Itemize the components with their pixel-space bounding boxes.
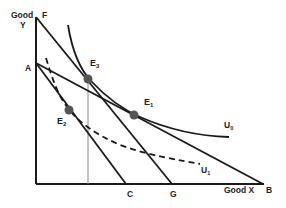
label-b: B bbox=[266, 185, 272, 195]
label-u1: U1 bbox=[201, 165, 210, 176]
point-e2 bbox=[65, 106, 74, 115]
budget-line-ac bbox=[36, 63, 126, 184]
diagram-canvas: Good Y Good X F A C G B E3 E1 E2 U0 U1 bbox=[0, 0, 286, 208]
label-e2: E2 bbox=[57, 116, 67, 127]
label-f: F bbox=[42, 10, 47, 20]
y-axis-label-line1: Good bbox=[11, 10, 33, 20]
point-e1 bbox=[130, 111, 139, 120]
budget-line-fg bbox=[36, 17, 172, 184]
y-axis-label-line2: Y bbox=[20, 20, 26, 30]
indifference-curve-u0 bbox=[68, 25, 229, 137]
label-e3: E3 bbox=[90, 58, 100, 69]
label-c: C bbox=[127, 189, 133, 199]
x-axis-label: Good X bbox=[224, 185, 255, 195]
label-e1: E1 bbox=[144, 97, 154, 108]
label-u0: U0 bbox=[224, 120, 233, 131]
label-g: G bbox=[170, 189, 177, 199]
point-e3 bbox=[84, 75, 93, 84]
label-a: A bbox=[25, 63, 31, 73]
